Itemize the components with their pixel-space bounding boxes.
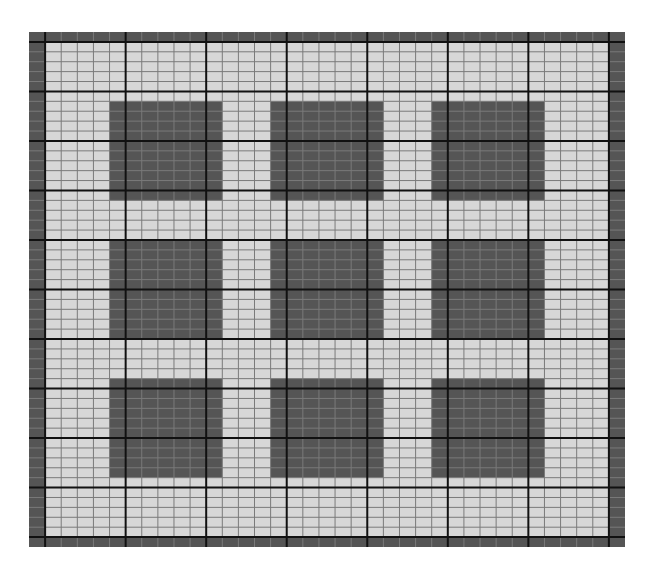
grid-chart <box>29 32 625 547</box>
grid-svg <box>29 32 625 547</box>
